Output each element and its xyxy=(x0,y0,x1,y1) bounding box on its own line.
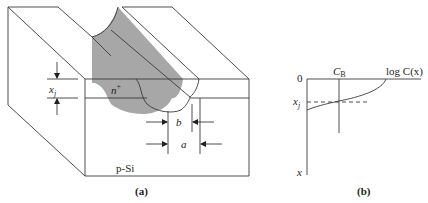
depth-axis-label: x xyxy=(296,166,302,178)
caption-a: (a) xyxy=(135,185,148,198)
xj-label: xj xyxy=(292,95,301,110)
caption-b: (b) xyxy=(357,185,371,198)
junction-depth-label: xj xyxy=(48,83,57,98)
profile-plot xyxy=(307,79,421,175)
block-diagram xyxy=(8,7,249,176)
x-axis-label: log C(x) xyxy=(386,65,423,78)
cb-label: CB xyxy=(333,65,346,79)
substrate-label: p-Si xyxy=(116,162,134,174)
dimension-b-label: b xyxy=(176,116,182,128)
dimension-a-label: a xyxy=(181,138,187,150)
origin-label: 0 xyxy=(297,72,303,84)
doping-profile-curve xyxy=(307,79,386,110)
diagram-canvas: xj n+ b a p-Si (a) 0 CB log C(x) xj x (b… xyxy=(0,0,428,203)
